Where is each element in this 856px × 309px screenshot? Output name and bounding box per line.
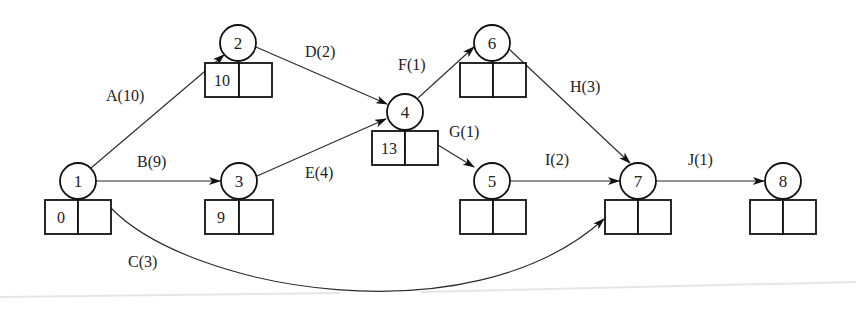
node-6-latest-box [493, 63, 526, 97]
node-1-latest-box [78, 200, 111, 234]
node-4-earliest-value: 13 [381, 140, 397, 157]
node-5: 5 [460, 163, 526, 234]
node-1: 1 0 [45, 163, 111, 234]
network-diagram: A(10) B(9) C(3) D(2) E(4) F(1) G(1) H(3)… [0, 0, 856, 309]
edge-label-G: G(1) [449, 123, 479, 141]
edge-label-B: B(9) [137, 153, 166, 171]
node-4: 4 13 [372, 94, 438, 165]
node-1-number: 1 [74, 172, 83, 191]
node-3-earliest-value: 9 [217, 209, 225, 226]
edge-label-J: J(1) [688, 151, 713, 169]
node-7: 7 [605, 163, 671, 234]
node-2-earliest-value: 10 [214, 72, 230, 89]
edge-label-I: I(2) [545, 151, 569, 169]
node-5-latest-box [493, 200, 526, 234]
node-8: 8 [750, 163, 816, 234]
edges [91, 47, 764, 291]
node-8-number: 8 [779, 172, 788, 191]
node-3-latest-box [239, 200, 273, 234]
node-6: 6 [460, 25, 526, 97]
edge-H [509, 49, 630, 163]
node-2-number: 2 [234, 34, 243, 53]
edge-G [438, 145, 474, 167]
node-5-number: 5 [488, 172, 497, 191]
edge-label-A: A(10) [106, 87, 144, 105]
node-7-earliest-box [605, 200, 638, 234]
node-7-number: 7 [634, 172, 643, 191]
node-4-latest-box [405, 131, 438, 165]
node-8-earliest-box [750, 200, 783, 234]
scan-artifact-line [0, 282, 856, 297]
node-3-number: 3 [235, 172, 244, 191]
edge-label-D: D(2) [305, 43, 335, 61]
node-6-number: 6 [488, 34, 497, 53]
node-6-earliest-box [460, 63, 493, 97]
node-1-earliest-value: 0 [57, 209, 65, 226]
node-5-earliest-box [460, 200, 493, 234]
edge-label-H: H(3) [570, 78, 600, 96]
edge-C [111, 208, 604, 291]
edge-label-F: F(1) [398, 56, 426, 74]
node-7-latest-box [638, 200, 671, 234]
node-4-number: 4 [401, 103, 410, 122]
node-2: 2 10 [205, 25, 272, 97]
node-8-latest-box [783, 200, 816, 234]
edge-label-C: C(3) [128, 253, 157, 271]
edge-label-E: E(4) [305, 164, 333, 182]
node-2-latest-box [239, 63, 272, 97]
edge-A [91, 55, 224, 168]
